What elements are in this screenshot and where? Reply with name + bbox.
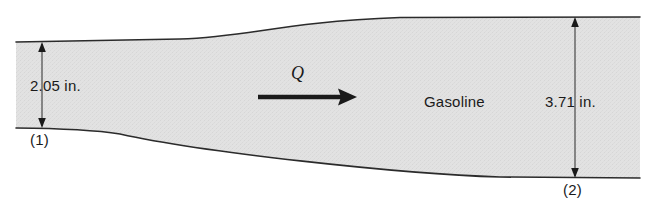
station-2-label: (2) <box>563 181 582 198</box>
inlet-diameter-label: 2.05 in. <box>30 77 81 94</box>
fluid-name-label: Gasoline <box>424 93 485 110</box>
pipe-flow-diagram: Q 2.05 in. (1) Gasoline 3.71 in. (2) <box>0 0 652 212</box>
station-1-label: (1) <box>30 131 49 148</box>
outlet-diameter-label: 3.71 in. <box>545 93 596 110</box>
flow-rate-symbol: Q <box>291 63 304 84</box>
